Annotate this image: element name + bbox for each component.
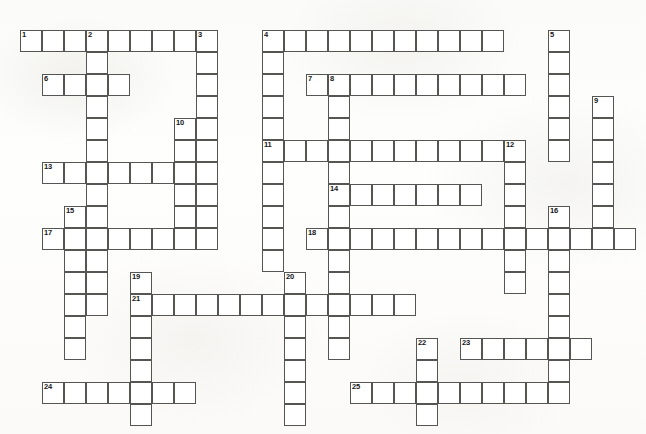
crossword-cell[interactable] — [460, 382, 482, 404]
crossword-cell[interactable] — [262, 118, 284, 140]
crossword-cell[interactable] — [284, 338, 306, 360]
crossword-cell[interactable] — [108, 74, 130, 96]
crossword-cell[interactable] — [108, 228, 130, 250]
crossword-cell[interactable] — [350, 140, 372, 162]
crossword-cell[interactable] — [262, 250, 284, 272]
crossword-cell[interactable] — [328, 316, 350, 338]
crossword-cell-23[interactable]: 23 — [460, 338, 482, 360]
crossword-cell[interactable] — [504, 272, 526, 294]
crossword-cell[interactable] — [174, 30, 196, 52]
crossword-cell[interactable] — [174, 228, 196, 250]
crossword-cell[interactable] — [504, 74, 526, 96]
crossword-cell[interactable] — [416, 184, 438, 206]
crossword-cell-13[interactable]: 13 — [42, 162, 64, 184]
crossword-cell[interactable] — [306, 294, 328, 316]
crossword-cell[interactable] — [108, 382, 130, 404]
crossword-cell[interactable] — [372, 30, 394, 52]
crossword-cell[interactable] — [504, 250, 526, 272]
crossword-cell[interactable] — [416, 140, 438, 162]
crossword-cell[interactable] — [504, 162, 526, 184]
crossword-cell[interactable] — [504, 382, 526, 404]
crossword-cell[interactable] — [548, 316, 570, 338]
crossword-cell[interactable] — [350, 30, 372, 52]
crossword-cell[interactable] — [328, 96, 350, 118]
crossword-cell[interactable] — [504, 184, 526, 206]
crossword-cell-9[interactable]: 9 — [592, 96, 614, 118]
crossword-cell-20[interactable]: 20 — [284, 272, 306, 294]
crossword-cell[interactable] — [592, 184, 614, 206]
crossword-cell[interactable] — [438, 228, 460, 250]
crossword-cell[interactable] — [174, 382, 196, 404]
crossword-cell[interactable] — [394, 228, 416, 250]
crossword-cell[interactable] — [284, 140, 306, 162]
crossword-cell[interactable] — [460, 74, 482, 96]
crossword-cell[interactable] — [328, 272, 350, 294]
crossword-cell[interactable] — [262, 162, 284, 184]
crossword-cell[interactable] — [86, 382, 108, 404]
crossword-cell[interactable] — [86, 184, 108, 206]
crossword-cell[interactable] — [130, 404, 152, 426]
crossword-cell[interactable] — [328, 294, 350, 316]
crossword-cell[interactable] — [548, 250, 570, 272]
crossword-cell[interactable] — [174, 184, 196, 206]
crossword-cell[interactable] — [86, 228, 108, 250]
crossword-cell[interactable] — [328, 118, 350, 140]
crossword-cell[interactable] — [460, 140, 482, 162]
crossword-cell[interactable] — [64, 272, 86, 294]
crossword-cell-24[interactable]: 24 — [42, 382, 64, 404]
crossword-cell[interactable] — [284, 316, 306, 338]
crossword-cell[interactable] — [196, 228, 218, 250]
crossword-cell[interactable] — [152, 30, 174, 52]
crossword-cell-16[interactable]: 16 — [548, 206, 570, 228]
crossword-cell[interactable] — [284, 404, 306, 426]
crossword-cell[interactable] — [548, 360, 570, 382]
crossword-cell-4[interactable]: 4 — [262, 30, 284, 52]
crossword-cell[interactable] — [262, 74, 284, 96]
crossword-cell[interactable] — [196, 294, 218, 316]
crossword-cell[interactable] — [64, 30, 86, 52]
crossword-cell[interactable] — [526, 228, 548, 250]
crossword-cell[interactable] — [86, 250, 108, 272]
crossword-cell[interactable] — [86, 272, 108, 294]
crossword-cell-12[interactable]: 12 — [504, 140, 526, 162]
crossword-cell[interactable] — [262, 96, 284, 118]
crossword-cell[interactable] — [284, 294, 306, 316]
crossword-cell[interactable] — [570, 228, 592, 250]
crossword-cell[interactable] — [284, 30, 306, 52]
crossword-cell[interactable] — [64, 162, 86, 184]
crossword-cell[interactable] — [394, 294, 416, 316]
crossword-cell[interactable] — [218, 294, 240, 316]
crossword-cell[interactable] — [86, 118, 108, 140]
crossword-cell[interactable] — [482, 74, 504, 96]
crossword-cell-11[interactable]: 11 — [262, 140, 284, 162]
crossword-cell[interactable] — [372, 294, 394, 316]
crossword-cell[interactable] — [548, 96, 570, 118]
crossword-cell[interactable] — [262, 206, 284, 228]
crossword-cell[interactable] — [64, 338, 86, 360]
crossword-cell[interactable] — [130, 30, 152, 52]
crossword-cell-21[interactable]: 21 — [130, 294, 152, 316]
crossword-cell[interactable] — [504, 228, 526, 250]
crossword-cell[interactable] — [592, 228, 614, 250]
crossword-cell[interactable] — [416, 360, 438, 382]
crossword-cell[interactable] — [482, 228, 504, 250]
crossword-cell[interactable] — [394, 184, 416, 206]
crossword-cell[interactable] — [174, 162, 196, 184]
crossword-cell-1[interactable]: 1 — [20, 30, 42, 52]
crossword-cell[interactable] — [416, 228, 438, 250]
crossword-cell-18[interactable]: 18 — [306, 228, 328, 250]
crossword-cell[interactable] — [130, 316, 152, 338]
crossword-cell-6[interactable]: 6 — [42, 74, 64, 96]
crossword-cell[interactable] — [526, 338, 548, 360]
crossword-cell[interactable] — [284, 360, 306, 382]
crossword-cell[interactable] — [504, 338, 526, 360]
crossword-cell[interactable] — [64, 228, 86, 250]
crossword-cell-2[interactable]: 2 — [86, 30, 108, 52]
crossword-cell[interactable] — [174, 140, 196, 162]
crossword-cell-10[interactable]: 10 — [174, 118, 196, 140]
crossword-cell[interactable] — [372, 74, 394, 96]
crossword-cell[interactable] — [130, 382, 152, 404]
crossword-cell[interactable] — [350, 228, 372, 250]
crossword-cell-15[interactable]: 15 — [64, 206, 86, 228]
crossword-cell[interactable] — [196, 206, 218, 228]
